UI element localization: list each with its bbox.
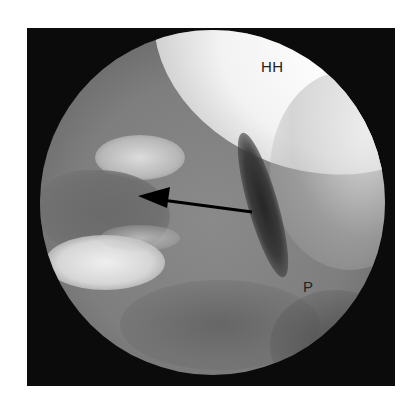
image-frame: HH P: [27, 28, 395, 386]
label-p: P: [303, 278, 314, 295]
arrow-line: [162, 200, 252, 212]
arrow-head: [138, 187, 170, 208]
label-hh: HH: [261, 58, 284, 75]
annotation-layer: [27, 28, 395, 386]
